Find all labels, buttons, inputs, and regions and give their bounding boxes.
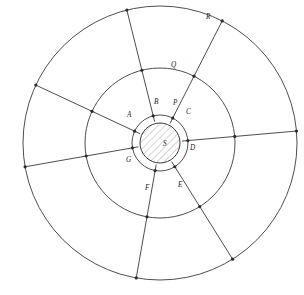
node-ring-A: [133, 130, 136, 133]
circle-core: [140, 123, 180, 163]
diagram-canvas: ABCDEFGSPQR: [0, 0, 304, 295]
node-outer-G: [23, 165, 26, 168]
point-label-D: D: [189, 144, 196, 152]
circle-label-ring: P: [172, 99, 178, 107]
radial-line-B: [127, 10, 155, 122]
point-label-F: F: [144, 184, 150, 192]
node-ring-C: [171, 116, 174, 119]
point-label-C: C: [186, 108, 191, 116]
node-mid-E: [198, 205, 201, 208]
node-outer-E: [231, 258, 234, 261]
node-mid-C: [192, 75, 195, 78]
radial-line-D: [182, 131, 297, 141]
node-ring-B: [152, 114, 155, 117]
radial-line-E: [172, 162, 233, 260]
node-outer-A: [34, 84, 37, 87]
node-outer-C: [221, 19, 224, 22]
point-label-G: G: [126, 156, 132, 164]
radial-line-C: [170, 21, 222, 123]
circle-label-mid: Q: [171, 61, 177, 69]
node-ring-E: [173, 165, 176, 168]
node-mid-A: [90, 110, 93, 113]
circle-label-core: S: [163, 140, 167, 148]
node-ring-F: [154, 169, 157, 172]
node-mid-B: [140, 69, 143, 72]
radial-line-G: [25, 147, 138, 167]
node-mid-D: [233, 135, 236, 138]
point-label-B: B: [154, 98, 159, 106]
node-outer-B: [125, 8, 128, 11]
point-label-E: E: [177, 181, 183, 189]
node-outer-F: [135, 276, 138, 279]
point-label-A: A: [126, 111, 132, 119]
concentric-circles-figure: ABCDEFGSPQR: [0, 0, 304, 295]
node-mid-G: [85, 154, 88, 157]
node-ring-D: [186, 139, 189, 142]
radial-line-F: [136, 165, 156, 278]
node-outer-D: [295, 129, 298, 132]
labels-group: ABCDEFGSPQR: [126, 13, 211, 192]
node-ring-G: [131, 146, 134, 149]
node-mid-F: [145, 215, 148, 218]
circles-group: [23, 6, 297, 280]
circle-label-outer: R: [205, 13, 211, 21]
radial-line-A: [36, 85, 140, 134]
